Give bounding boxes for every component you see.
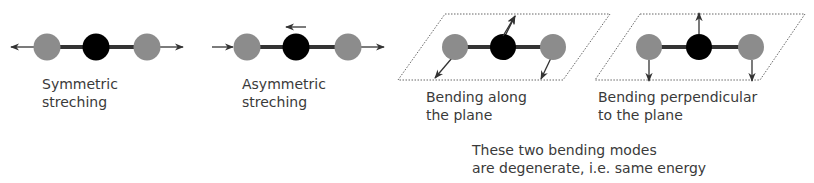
label-line: streching xyxy=(242,94,307,110)
outer-atom xyxy=(335,34,362,61)
outer-atom xyxy=(540,34,566,60)
label-line: Bending along xyxy=(426,89,527,105)
center-atom xyxy=(83,34,110,61)
label-line: the plane xyxy=(426,107,492,123)
note-line: are degenerate, i.e. same energy xyxy=(472,160,706,176)
bending-perpendicular-label: Bending perpendicularto the plane xyxy=(598,88,757,124)
center-atom xyxy=(283,34,310,61)
outer-atom xyxy=(234,34,261,61)
note-line: These two bending modes xyxy=(472,142,657,158)
bending-in-plane-label: Bending alongthe plane xyxy=(426,88,527,124)
arrow-down-left-icon xyxy=(541,58,551,79)
arrow-down-left-icon xyxy=(435,58,452,78)
label-line: to the plane xyxy=(598,107,683,123)
bending-in-plane-molecule xyxy=(398,14,610,80)
asymmetric-stretch-molecule xyxy=(212,27,384,61)
label-line: streching xyxy=(42,94,107,110)
center-atom xyxy=(490,34,516,60)
bending-perpendicular-molecule xyxy=(595,13,805,81)
label-line: Symmetric xyxy=(42,76,118,92)
outer-atom xyxy=(34,34,61,61)
outer-atom xyxy=(134,34,161,61)
outer-atom xyxy=(636,34,662,60)
label-line: Bending perpendicular xyxy=(598,89,757,105)
degeneracy-note: These two bending modesare degenerate, i… xyxy=(472,141,706,177)
symmetric-stretch-label: Symmetricstreching xyxy=(42,75,118,111)
asymmetric-stretch-label: Asymmetricstreching xyxy=(242,75,326,111)
center-atom xyxy=(686,34,712,60)
symmetric-stretch-molecule xyxy=(11,34,183,61)
outer-atom xyxy=(442,34,468,60)
label-line: Asymmetric xyxy=(242,76,326,92)
outer-atom xyxy=(738,34,764,60)
